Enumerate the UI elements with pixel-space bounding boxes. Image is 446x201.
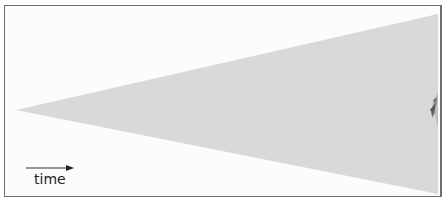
expanding-wedge [16, 14, 438, 194]
time-label: time [34, 171, 66, 187]
time-cone-diagram [0, 0, 446, 201]
